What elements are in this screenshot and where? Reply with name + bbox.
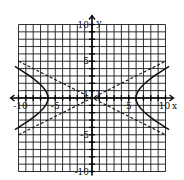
y-tick-label: 10 bbox=[78, 20, 90, 30]
x-tick-label: 10 bbox=[159, 101, 171, 111]
y-tick-label: 5 bbox=[83, 56, 89, 66]
tick-labels: -10-515101051-5-10xy bbox=[13, 18, 177, 177]
x-tick-label: 1 bbox=[95, 89, 101, 99]
x-tick-label: -5 bbox=[51, 101, 60, 111]
hyperbola-graph: -10-515101051-5-10xy bbox=[0, 0, 184, 180]
y-tick-label: 1 bbox=[83, 90, 89, 100]
y-axis-label: y bbox=[95, 18, 102, 28]
x-axis-label: x bbox=[172, 101, 177, 111]
y-tick-label: -10 bbox=[75, 167, 90, 177]
y-tick-label: -5 bbox=[80, 130, 89, 140]
x-tick-label: 5 bbox=[126, 101, 132, 111]
x-tick-label: -10 bbox=[13, 101, 28, 111]
